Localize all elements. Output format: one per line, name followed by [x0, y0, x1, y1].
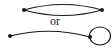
connecting-edge [10, 31, 90, 37]
loop-graph [10, 27, 111, 45]
loop-edge [90, 27, 111, 45]
multi-edge-graph [24, 5, 102, 16]
separator-text: or [50, 15, 60, 27]
vertex-bottom-left [8, 34, 12, 38]
upper-edge [24, 5, 102, 11]
vertex-bottom-right [88, 35, 92, 39]
vertex-top-left [22, 8, 26, 12]
lower-edge [24, 10, 102, 16]
vertex-top-right [100, 8, 104, 12]
